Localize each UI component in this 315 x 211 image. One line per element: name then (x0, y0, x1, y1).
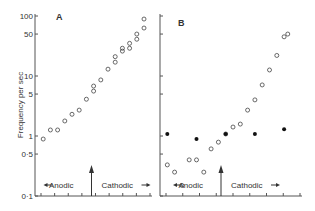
anodic-label: Anodic (179, 181, 203, 190)
data-point-open (253, 98, 257, 102)
data-point-open (187, 158, 191, 162)
data-point-open (70, 112, 74, 116)
data-point-open (209, 147, 213, 151)
data-point-open (173, 170, 177, 174)
left-arrow-icon (44, 183, 48, 187)
data-point-open (246, 108, 250, 112)
y-tick-label: 100 (20, 12, 34, 21)
right-arrow-icon (147, 183, 151, 187)
data-point-open (77, 108, 81, 112)
data-point-open (286, 32, 290, 36)
y-tick-label: 5 (29, 90, 34, 99)
y-tick-label: 0·5 (21, 150, 33, 159)
data-point-open (113, 60, 117, 64)
zero-arrow-head-icon (89, 165, 94, 173)
data-point-open (56, 128, 60, 132)
cathodic-label: Cathodic (231, 181, 263, 190)
data-point-open (135, 37, 139, 41)
right-arrow-icon (276, 183, 280, 187)
data-point-open (142, 17, 146, 21)
data-point-open (268, 68, 272, 72)
data-point-open (275, 53, 279, 57)
data-point-open (216, 140, 220, 144)
data-point-filled (165, 132, 169, 136)
data-point-open (106, 67, 110, 71)
data-point-open (142, 26, 146, 30)
data-point-open (99, 78, 103, 82)
zero-arrow-head-icon (219, 165, 224, 173)
data-point-filled (195, 137, 199, 141)
data-point-open (231, 125, 235, 129)
figure: 1005010510·50·1 Frequency per sec AAnodi… (0, 0, 315, 211)
data-point-open (195, 158, 199, 162)
data-point-open (282, 35, 286, 39)
y-axis-label: Frequency per sec (16, 72, 25, 138)
panel-b: BAnodicCathodic (160, 14, 302, 196)
data-point-open (128, 41, 132, 45)
cathodic-label: Cathodic (102, 181, 134, 190)
y-tick-label: 0·1 (21, 192, 33, 201)
left-arrow-icon (173, 183, 177, 187)
data-point-filled (282, 127, 286, 131)
data-point-open (84, 97, 88, 101)
data-point-filled (253, 132, 257, 136)
data-point-open (113, 55, 117, 59)
data-point-open (128, 46, 132, 50)
data-point-open (92, 89, 96, 93)
data-point-open (238, 122, 242, 126)
data-point-open (260, 83, 264, 87)
y-tick-label: 1 (29, 132, 34, 141)
panel-label: A (56, 12, 63, 22)
data-point-open (63, 119, 67, 123)
data-point-open (120, 46, 124, 50)
data-point-open (48, 128, 52, 132)
y-tick-label: 50 (24, 30, 33, 39)
data-point-open (202, 170, 206, 174)
data-point-open (41, 137, 45, 141)
data-point-open (92, 84, 96, 88)
y-tick-label: 10 (24, 72, 33, 81)
panel-a: AAnodicCathodic (35, 12, 152, 196)
panel-label: B (178, 18, 185, 28)
data-point-filled (224, 132, 228, 136)
data-point-open (165, 163, 169, 167)
anodic-label: Anodic (49, 181, 73, 190)
data-point-open (135, 32, 139, 36)
